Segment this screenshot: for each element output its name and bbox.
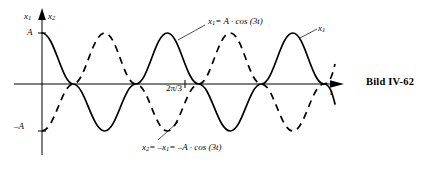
figure-bild-iv-62: x1 x2 A –A t 2π/3 x1 x1= A · cos (3t) x2… (0, 0, 443, 169)
leader-line-curve-tag (300, 29, 317, 38)
curve-x1-solid (42, 33, 335, 131)
equation-x2-label: x2= –x1= –A · cos (3t) (142, 143, 221, 153)
equation-x2-rhs: = –A · cos (3t) (169, 142, 221, 152)
equation-x1-rhs: = A · cos (3t) (215, 16, 263, 26)
amplitude-label-negative: –A (14, 122, 24, 131)
leader-line-equation-top (178, 25, 205, 40)
y-axis-label-x1: x1 (24, 12, 31, 22)
curve-x2-dashed (42, 33, 335, 131)
y-axis-arrow-icon (38, 8, 46, 20)
figure-caption: Bild IV-62 (366, 76, 414, 87)
y-axis-label-x1-subscript: 1 (28, 14, 31, 21)
y-axis-label-x2: x2 (48, 12, 55, 22)
leader-line-equation-bottom (158, 122, 178, 140)
y-axis-label-x2-subscript: 2 (52, 14, 55, 21)
curve-tag-x1: x1 (318, 24, 325, 34)
x-axis-label-t: t (330, 88, 333, 97)
amplitude-label-positive: A (27, 28, 33, 37)
curve-tag-x1-subscript: 1 (322, 26, 325, 33)
equation-x1-label: x1= A · cos (3t) (208, 17, 263, 27)
equation-x2-mid-operator: = – (149, 142, 162, 152)
x-tick-label-2pi-over-3: 2π/3 (166, 84, 182, 93)
